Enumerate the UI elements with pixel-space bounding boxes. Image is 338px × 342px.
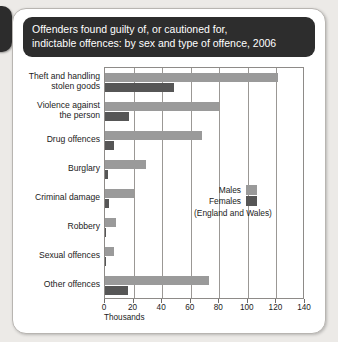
category-label: Theft and handlingstolen goods: [4, 71, 100, 91]
bar-group: [105, 271, 303, 300]
legend-swatch-females: [246, 196, 257, 206]
x-tick-label: 20: [128, 303, 137, 312]
chart-card: Offenders found guilty of, or cautioned …: [12, 8, 326, 334]
bar-females: [105, 228, 106, 237]
bar-females: [105, 112, 129, 121]
category-label: Burglary: [4, 163, 100, 173]
figure-root: Offenders found guilty of, or cautioned …: [0, 0, 338, 342]
chart-title-line-1: Offenders found guilty of, or cautioned …: [32, 23, 306, 37]
bar-females: [105, 170, 108, 179]
x-tick-label: 120: [269, 303, 283, 312]
bar-females: [105, 257, 106, 266]
bar-group: [105, 97, 303, 126]
bar-females: [105, 286, 128, 295]
x-tick-label: 80: [214, 303, 223, 312]
legend-note: (England and Wales): [194, 208, 304, 218]
bar-males: [105, 160, 146, 169]
legend-row-females: Females: [194, 195, 304, 206]
category-label: Other offences: [4, 279, 100, 289]
chart-title-line-2: indictable offences: by sex and type of …: [32, 37, 306, 51]
chart-legend: Males Females (England and Wales): [194, 184, 304, 218]
legend-label-females: Females: [194, 196, 246, 206]
bar-males: [105, 131, 202, 140]
bar-females: [105, 199, 109, 208]
x-tick-label: 0: [102, 303, 107, 312]
legend-label-males: Males: [194, 185, 246, 195]
category-label: Sexual offences: [4, 250, 100, 260]
x-tick-label: 60: [185, 303, 194, 312]
x-tick-label: 100: [240, 303, 254, 312]
bar-females: [105, 83, 174, 92]
x-axis-label: Thousands: [104, 313, 145, 322]
category-label: Robbery: [4, 221, 100, 231]
category-label: Drug offences: [4, 134, 100, 144]
bar-males: [105, 247, 114, 256]
category-label: Violence againstthe person: [4, 100, 100, 120]
left-edge-tab: [0, 6, 12, 52]
x-tick-label: 140: [297, 303, 311, 312]
bar-group: [105, 242, 303, 271]
bar-males: [105, 189, 134, 198]
category-label: Criminal damage: [4, 192, 100, 202]
bar-males: [105, 73, 278, 82]
bar-males: [105, 102, 219, 111]
plot-area: [104, 67, 304, 299]
plot-wrapper: Theft and handlingstolen goodsViolence a…: [13, 63, 327, 325]
bar-males: [105, 276, 209, 285]
x-tick-label: 40: [157, 303, 166, 312]
legend-row-males: Males: [194, 184, 304, 195]
chart-title-bar: Offenders found guilty of, or cautioned …: [23, 17, 315, 57]
bar-females: [105, 141, 114, 150]
bar-males: [105, 218, 116, 227]
bar-group: [105, 68, 303, 97]
legend-swatch-males: [246, 185, 257, 195]
bar-group: [105, 155, 303, 184]
bar-group: [105, 126, 303, 155]
